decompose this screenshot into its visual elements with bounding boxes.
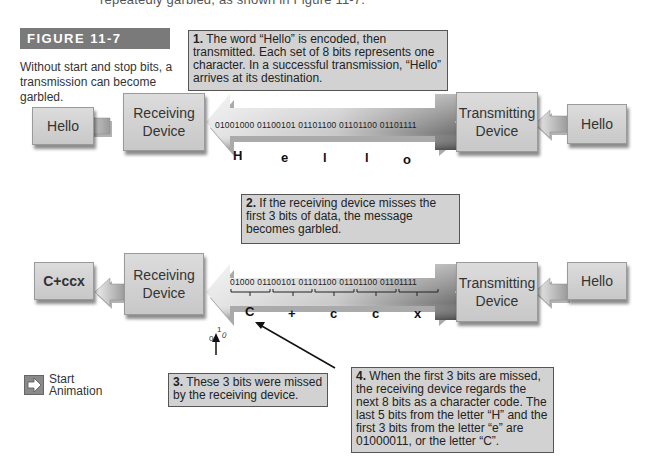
note-4-text: When the first 3 bits are missed, the re… [356, 369, 547, 448]
small-arrow-input-2 [535, 278, 570, 309]
missed-bit: 1 [217, 325, 221, 334]
receiver-label-line1: Receiving [133, 104, 194, 122]
note-2-text: If the receiving device misses the first… [246, 196, 436, 236]
small-arrow-output-2 [95, 278, 127, 309]
note-3: 3. These 3 bits were missed by the recei… [168, 373, 328, 407]
start-animation-button[interactable]: Start Animation [24, 373, 102, 397]
note-3-text: These 3 bits were missed by the receivin… [173, 375, 322, 402]
transmitter-label-line2: Device [476, 292, 519, 310]
start-animation-label: Start Animation [49, 373, 102, 397]
decoded-letter: l [323, 150, 327, 165]
input-text-2: Hello [581, 272, 613, 290]
decoded-letter: e [281, 150, 288, 165]
garbled-letter: C [245, 304, 254, 319]
receiving-device-2: Receiving Device [124, 253, 204, 315]
output-box-2: C+ccx [34, 262, 94, 300]
missed-bit: 0 [209, 334, 213, 343]
play-arrow-icon [24, 375, 44, 395]
input-text-1: Hello [581, 115, 613, 133]
transmitter-label-line1: Transmitting [459, 104, 536, 122]
note-4-number: 4. [356, 369, 366, 383]
receiver-label-line1: Receiving [133, 266, 194, 284]
decoded-letter: o [403, 152, 411, 167]
transmitter-label-line2: Device [476, 122, 519, 140]
note-3-number: 3. [173, 375, 183, 389]
input-box-1: Hello [567, 104, 627, 144]
bit-stream-1: 01001000 01100101 01101100 01101100 0110… [215, 120, 417, 130]
garbled-letter: x [414, 306, 421, 321]
decoded-letter: H [233, 148, 242, 163]
transmitting-device-1: Transmitting Device [456, 92, 538, 152]
garbled-letter: c [330, 306, 337, 321]
input-box-2: Hello [567, 262, 627, 300]
receiving-device-1: Receiving Device [123, 93, 205, 151]
bit-stream-2: 01000 01100101 01101100 01101100 0110111… [230, 277, 417, 287]
garbled-letter: c [372, 306, 379, 321]
receiver-label-line2: Device [143, 284, 186, 302]
transmitter-label-line1: Transmitting [459, 274, 536, 292]
decoded-letter: l [365, 150, 369, 165]
output-text-1: Hello [47, 117, 79, 135]
output-text-2: C+ccx [43, 272, 85, 290]
transmitting-device-2: Transmitting Device [456, 262, 538, 322]
garbled-letter: + [288, 306, 296, 321]
pointer-letter-c [260, 325, 335, 368]
small-arrow-input-1 [535, 110, 570, 141]
receiver-label-line2: Device [143, 122, 186, 140]
note-2: 2. If the receiving device misses the fi… [241, 194, 460, 244]
note-2-number: 2. [246, 196, 256, 210]
output-box-1: Hello [32, 107, 94, 145]
note-4: 4. When the first 3 bits are missed, the… [351, 367, 554, 453]
